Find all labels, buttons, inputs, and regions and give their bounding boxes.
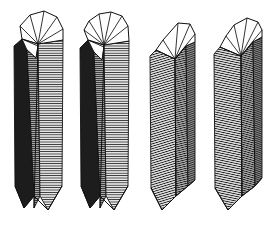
twisted-prisms-figure [0, 0, 275, 228]
prism3-face-left [150, 50, 176, 210]
prism3-face-right [186, 42, 195, 186]
figure-canvas [0, 0, 275, 228]
twisted-prism-3 [150, 23, 195, 210]
twisted-prism-2 [80, 12, 129, 210]
prism1-face-right [38, 40, 63, 210]
prism2-face-right [104, 41, 129, 210]
prism4-face-left [214, 47, 242, 210]
twisted-prism-1 [14, 11, 63, 210]
twisted-prism-4 [214, 18, 262, 210]
prism4-face-right [253, 37, 262, 186]
